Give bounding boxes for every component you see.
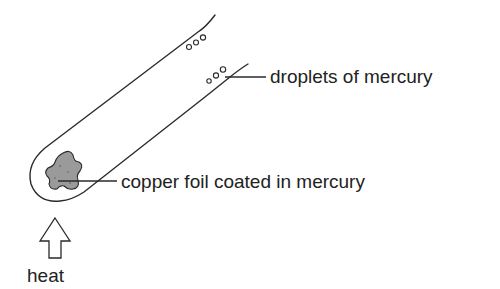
heat-arrow-icon	[40, 218, 70, 258]
droplets-label: droplets of mercury	[270, 67, 433, 86]
copper-foil-label: copper foil coated in mercury	[121, 172, 365, 191]
droplets-lower	[207, 67, 226, 83]
diagram: droplets of mercury copper foil coated i…	[0, 0, 500, 289]
test-tube-diagram	[0, 0, 500, 289]
heat-label: heat	[27, 266, 64, 285]
copper-foil	[46, 151, 82, 189]
droplets-upper	[187, 35, 206, 50]
